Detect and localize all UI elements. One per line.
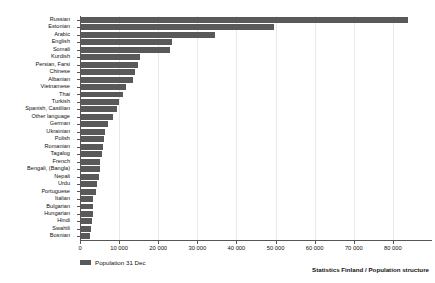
bar-series-population-31-dec — [80, 16, 432, 240]
bar-spanish-castilian — [80, 106, 117, 112]
bar-french — [80, 159, 100, 165]
bar-row — [80, 135, 432, 142]
bar-row — [80, 98, 432, 105]
bar-row — [80, 173, 432, 180]
bar-row — [80, 121, 432, 128]
bar-urdu — [80, 181, 97, 187]
plot-area — [80, 16, 432, 240]
x-axis-tick-label: 20 000 — [149, 245, 167, 251]
x-axis-tick — [354, 241, 355, 244]
bar-portuguese — [80, 189, 96, 195]
bar-swahili — [80, 226, 91, 232]
bar-polish — [80, 136, 104, 142]
bar-russian — [80, 17, 408, 23]
bar-row — [80, 195, 432, 202]
bar-row — [80, 143, 432, 150]
bar-row — [80, 31, 432, 38]
bar-row — [80, 83, 432, 90]
bar-row — [80, 106, 432, 113]
bar-english — [80, 39, 172, 45]
bar-row — [80, 218, 432, 225]
bar-chinese — [80, 69, 135, 75]
y-axis-label: Bosnian — [50, 232, 70, 240]
bar-persian-farsi — [80, 62, 138, 68]
x-axis-tick-label: 60 000 — [306, 245, 324, 251]
bar-row — [80, 225, 432, 232]
bar-kurdish — [80, 54, 140, 60]
bar-hungarian — [80, 211, 93, 217]
bar-row — [80, 53, 432, 60]
bar-row — [80, 210, 432, 217]
bar-somali — [80, 47, 170, 53]
bar-row — [80, 180, 432, 187]
bar-german — [80, 121, 108, 127]
legend-label-population-31-dec: Population 31 Dec — [95, 259, 146, 266]
x-axis-tick-label: 10 000 — [110, 245, 128, 251]
x-axis-tick — [119, 241, 120, 244]
bar-ukrainian — [80, 129, 105, 135]
bar-row — [80, 150, 432, 157]
bar-row — [80, 233, 432, 240]
bar-bosnian — [80, 233, 90, 239]
x-axis-tick — [276, 241, 277, 244]
x-axis-tick — [236, 241, 237, 244]
bar-row — [80, 23, 432, 30]
bar-other-language — [80, 114, 113, 120]
x-axis-tick-label: 80 000 — [384, 245, 402, 251]
x-axis-tick — [80, 241, 81, 244]
legend-swatch-population-31-dec — [80, 260, 91, 265]
bar-turkish — [80, 99, 119, 105]
x-axis-tick — [158, 241, 159, 244]
bar-thai — [80, 92, 123, 98]
y-axis-category-labels: RussianEstonianArabicEnglishSomaliKurdis… — [0, 16, 74, 240]
bar-row — [80, 203, 432, 210]
bar-row — [80, 61, 432, 68]
bar-albanian — [80, 77, 133, 83]
bar-row — [80, 76, 432, 83]
bar-row — [80, 91, 432, 98]
bar-romanian — [80, 144, 103, 150]
x-axis-tick-label: 30 000 — [188, 245, 206, 251]
bar-row — [80, 128, 432, 135]
bar-italian — [80, 196, 93, 202]
bar-bengali-bangla — [80, 166, 100, 172]
bar-row — [80, 38, 432, 45]
bar-row — [80, 188, 432, 195]
bar-bulgarian — [80, 204, 93, 210]
bar-arabic — [80, 32, 215, 38]
x-axis-tick-label: 0 — [78, 245, 81, 251]
x-axis-tick-label: 50 000 — [267, 245, 285, 251]
bar-row — [80, 113, 432, 120]
bar-row — [80, 46, 432, 53]
bar-tagalog — [80, 151, 102, 157]
x-axis-tick — [393, 241, 394, 244]
x-axis-tick — [315, 241, 316, 244]
bar-row — [80, 16, 432, 23]
x-axis-line — [80, 240, 432, 241]
bar-row — [80, 68, 432, 75]
x-axis-tick-label: 40 000 — [228, 245, 246, 251]
bar-vietnamese — [80, 84, 126, 90]
x-axis-tick — [197, 241, 198, 244]
bar-nepali — [80, 174, 99, 180]
source-attribution: Statistics Finland / Population structur… — [312, 266, 429, 273]
chart-legend: Population 31 Dec — [80, 259, 146, 266]
bar-row — [80, 165, 432, 172]
bar-hindi — [80, 218, 92, 224]
bar-estonian — [80, 24, 274, 30]
population-by-language-bar-chart: RussianEstonianArabicEnglishSomaliKurdis… — [0, 0, 435, 283]
bar-row — [80, 158, 432, 165]
x-axis-tick-label: 70 000 — [345, 245, 363, 251]
